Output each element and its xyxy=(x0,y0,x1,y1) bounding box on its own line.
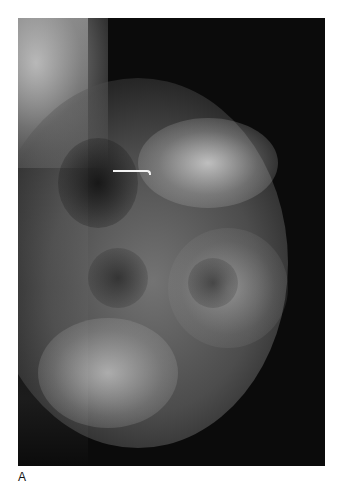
fatty-region-middle xyxy=(88,248,148,308)
dense-tissue-lower xyxy=(38,318,178,428)
mammogram-image xyxy=(18,18,325,466)
panel-label: A xyxy=(18,471,26,483)
localization-wire-tip xyxy=(145,170,151,175)
localization-wire-marker xyxy=(113,170,147,172)
fatty-region-upper xyxy=(58,138,138,228)
dense-tissue-upper xyxy=(138,118,278,208)
fatty-region-right xyxy=(188,258,238,308)
